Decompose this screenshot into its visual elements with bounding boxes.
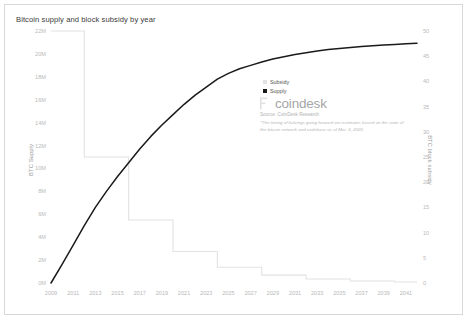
x-axis-tick: 2011 <box>67 290 79 296</box>
legend-item-label: Subsidy <box>270 79 289 85</box>
source-credit: Source: CoinDesk Research <box>260 112 410 117</box>
y-axis-left-tick: 4M <box>38 234 46 240</box>
y-axis-right-tick: 0 <box>423 280 426 286</box>
x-axis-tick: 2037 <box>355 290 367 296</box>
branding-block: coindesk Source: CoinDesk Research *The … <box>260 97 410 133</box>
y-axis-left-tick: 16M <box>35 97 46 103</box>
x-axis-tick: 2041 <box>400 290 412 296</box>
y-axis-right-tick: 25 <box>423 154 429 160</box>
x-axis-tick: 2035 <box>333 290 345 296</box>
x-axis-tick: 2033 <box>311 290 323 296</box>
y-axis-right-tick: 15 <box>423 204 429 210</box>
y-axis-right-tick: 35 <box>423 104 429 110</box>
y-axis-left-tick: 0M <box>38 280 46 286</box>
y-axis-right-tick: 45 <box>423 53 429 59</box>
chart-frame: Bitcoin supply and block subsidy by year… <box>4 4 463 315</box>
x-axis-tick: 2015 <box>111 290 123 296</box>
x-axis-tick: 2029 <box>267 290 279 296</box>
x-axis-tick: 2039 <box>377 290 389 296</box>
x-axis-tick: 2025 <box>222 290 234 296</box>
y-axis-left-tick: 10M <box>35 165 46 171</box>
y-axis-left-tick: 2M <box>38 257 46 263</box>
y-axis-left-tick: 18M <box>35 74 46 80</box>
y-axis-left-tick: 12M <box>35 143 46 149</box>
supply-line-path <box>51 43 417 283</box>
x-axis-tick: 2023 <box>200 290 212 296</box>
x-axis-tick: 2021 <box>178 290 190 296</box>
legend: SubsidySupply <box>263 78 289 96</box>
x-axis-tick: 2027 <box>244 290 256 296</box>
legend-swatch-icon <box>263 80 267 84</box>
y-axis-left-title: BTC Supply <box>28 144 34 176</box>
legend-item[interactable]: Subsidy <box>263 78 289 86</box>
y-axis-left-tick: 14M <box>35 120 46 126</box>
x-axis-tick: 2009 <box>45 290 57 296</box>
x-axis-tick: 2013 <box>89 290 101 296</box>
y-axis-right-tick: 50 <box>423 28 429 34</box>
chart-title: Bitcoin supply and block subsidy by year <box>16 15 156 24</box>
y-axis-right-tick: 5 <box>423 255 426 261</box>
y-axis-left-tick: 8M <box>38 188 46 194</box>
y-axis-left-tick: 22M <box>35 28 46 34</box>
y-axis-left-tick: 20M <box>35 51 46 57</box>
coindesk-wordmark: coindesk <box>275 97 327 110</box>
legend-item[interactable]: Supply <box>263 87 289 95</box>
x-axis-tick: 2031 <box>289 290 301 296</box>
y-axis-right-tick: 10 <box>423 230 429 236</box>
y-axis-right-tick: 20 <box>423 179 429 185</box>
footnote-text: *The timing of halvings going forward ar… <box>260 120 410 133</box>
coindesk-logo: coindesk <box>260 97 410 110</box>
plot-area: 0M2M4M6M8M10M12M14M16M18M20M22M 05101520… <box>51 31 417 283</box>
x-axis-tick: 2019 <box>156 290 168 296</box>
legend-item-label: Supply <box>270 88 286 94</box>
supply-line-series <box>51 31 417 283</box>
x-axis-tick: 2017 <box>133 290 145 296</box>
y-axis-right-tick: 40 <box>423 78 429 84</box>
coindesk-mark-icon <box>260 97 271 110</box>
y-axis-right-tick: 30 <box>423 129 429 135</box>
legend-swatch-icon <box>263 89 267 93</box>
y-axis-left-tick: 6M <box>38 211 46 217</box>
